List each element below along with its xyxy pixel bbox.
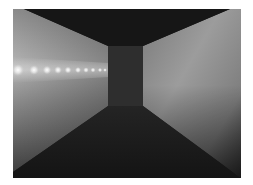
light-icon (91, 68, 96, 73)
light-icon (83, 67, 89, 73)
corridor-render (13, 9, 241, 178)
light-icon (65, 67, 72, 74)
corridor-svg (13, 9, 241, 178)
back-wall (108, 46, 143, 106)
light-icon (54, 66, 62, 74)
light-icon (43, 66, 52, 75)
light-icon (98, 68, 102, 72)
light-icon (29, 65, 39, 75)
light-icon (75, 67, 81, 73)
light-icon (103, 68, 107, 72)
